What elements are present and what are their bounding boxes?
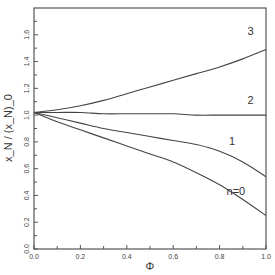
curve-label: 3: [247, 25, 253, 37]
y-tick-label: 0.0: [23, 244, 30, 254]
x-tick-label: 0.8: [215, 253, 225, 260]
curve-labels: 321n=0: [227, 25, 254, 198]
y-tick-label: 1.2: [23, 83, 30, 93]
plot-area-border: [34, 8, 266, 249]
curve-label: 2: [247, 94, 253, 106]
curve-n-0: [34, 112, 266, 215]
curve-label: 1: [229, 135, 235, 147]
x-tick-label: 0.6: [168, 253, 178, 260]
y-tick-label: 0.4: [23, 190, 30, 200]
y-axis-title: x_N / (x_N)_0: [2, 94, 14, 162]
x-tick-label: 1.0: [261, 253, 271, 260]
plot-frame: [34, 8, 266, 249]
curve-n-2: [34, 112, 266, 115]
y-tick-label: 1.0: [23, 110, 30, 120]
y-tick-label: 0.2: [23, 217, 30, 227]
curve-label: n=0: [227, 185, 246, 197]
curve-n-3: [34, 50, 266, 113]
line-chart: 0.00.20.40.60.81.00.00.20.40.60.81.01.21…: [0, 0, 275, 275]
y-tick-label: 1.6: [23, 30, 30, 40]
x-tick-label: 0.2: [76, 253, 86, 260]
y-tick-label: 0.6: [23, 164, 30, 174]
x-tick-label: 0.0: [29, 253, 39, 260]
x-tick-label: 0.4: [122, 253, 132, 260]
x-axis-title: Φ: [146, 260, 155, 272]
y-tick-label: 1.4: [23, 57, 30, 67]
y-tick-label: 0.8: [23, 137, 30, 147]
